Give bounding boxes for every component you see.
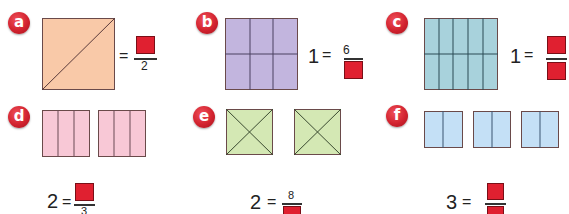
- shape-f-rect-3-line: [521, 111, 559, 148]
- answer-box-c-denominator[interactable]: [547, 62, 566, 80]
- denominator-a: 2: [141, 59, 148, 73]
- answer-box-c-numerator[interactable]: [547, 36, 566, 54]
- badge-d: d: [8, 106, 30, 128]
- fraction-line-e: [282, 203, 302, 205]
- fraction-line-c: [546, 58, 567, 60]
- answer-box-b-denominator[interactable]: [344, 61, 363, 79]
- equals-f: =: [462, 193, 471, 211]
- fraction-line-b: [344, 58, 363, 60]
- shape-c-lines: [424, 18, 498, 90]
- shape-f-rect-1-line: [424, 111, 463, 148]
- answer-box-f-numerator[interactable]: [487, 183, 504, 200]
- whole-b: 1: [308, 45, 319, 68]
- fraction-line-f: [485, 203, 506, 205]
- shape-b-lines: [225, 18, 298, 90]
- equals-d: =: [62, 193, 71, 211]
- numerator-e: 8: [288, 189, 294, 201]
- badge-b: b: [196, 12, 218, 34]
- badge-e: e: [193, 106, 215, 128]
- badge-c: c: [386, 12, 408, 34]
- shape-f-rect-2-line: [473, 111, 511, 148]
- shape-d-rect-2-lines: [98, 110, 146, 157]
- equals-b: =: [322, 46, 331, 64]
- shape-a-diagonal: [42, 18, 115, 90]
- shape-e-square-1-diagonals: [226, 109, 273, 155]
- whole-e: 2: [250, 191, 261, 214]
- whole-c: 1: [510, 45, 521, 68]
- badge-a: a: [8, 12, 30, 34]
- shape-e-square-2-diagonals: [294, 109, 341, 155]
- equals-e: =: [267, 193, 276, 211]
- denominator-d: 3: [81, 205, 87, 214]
- numerator-b: 6: [343, 43, 350, 57]
- equals-a: =: [119, 47, 128, 65]
- answer-box-d-numerator[interactable]: [75, 183, 94, 201]
- answer-box-e-denominator[interactable]: [283, 206, 301, 214]
- whole-f: 3: [446, 191, 457, 214]
- badge-f: f: [386, 105, 408, 127]
- answer-box-a-numerator[interactable]: [136, 36, 155, 54]
- equals-c: =: [524, 46, 533, 64]
- answer-box-f-denominator[interactable]: [487, 206, 504, 214]
- shape-d-rect-1-lines: [42, 110, 90, 157]
- whole-d: 2: [47, 190, 58, 213]
